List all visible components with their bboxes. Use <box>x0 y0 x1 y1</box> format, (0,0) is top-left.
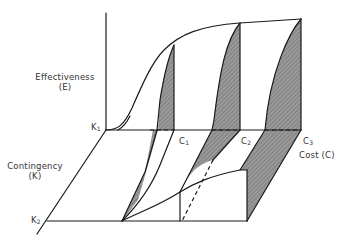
tick-k1: K1 <box>91 122 101 134</box>
tick-c1: C1 <box>179 136 189 148</box>
tick-k1-sub: 1 <box>97 125 101 132</box>
cost-label-text: Cost (C) <box>299 150 335 160</box>
effectiveness-cost-contingency-diagram <box>0 0 349 243</box>
effectiveness-axis-label: Effectiveness (E) <box>33 72 97 92</box>
shaded-slice-c3 <box>240 19 301 221</box>
dashed-projection <box>182 160 213 221</box>
effectiveness-label-line1: Effectiveness <box>33 72 97 82</box>
tick-k2: K2 <box>31 215 41 227</box>
tick-c3-sub: 3 <box>309 139 313 146</box>
contingency-axis-label: Contingency (K) <box>5 161 65 181</box>
contingency-axis <box>37 130 106 234</box>
tick-c2: C2 <box>241 136 251 148</box>
cost-axis-label: Cost (C) <box>299 150 335 160</box>
shaded-slice-c1 <box>122 45 174 221</box>
tick-k2-sub: 2 <box>37 218 41 225</box>
effectiveness-curve-k2 <box>122 170 247 221</box>
tick-c1-sub: 1 <box>185 139 189 146</box>
contingency-label-line1: Contingency <box>5 161 65 171</box>
effectiveness-label-line2: (E) <box>33 82 97 92</box>
tick-c2-sub: 2 <box>247 139 251 146</box>
tick-c3: C3 <box>303 136 313 148</box>
contingency-label-line2: (K) <box>5 171 65 181</box>
